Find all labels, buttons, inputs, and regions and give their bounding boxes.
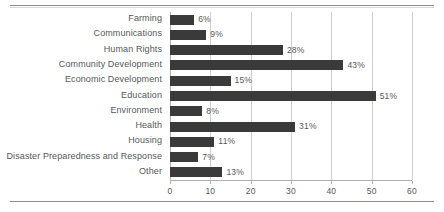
bar-value-label: 15% (235, 75, 253, 85)
category-label: Disaster Preparedness and Response (7, 151, 163, 161)
bar-value-label: 28% (287, 45, 305, 55)
bar-row: 9% (170, 27, 412, 42)
x-tick-20 (251, 181, 252, 184)
category-label: Communications (94, 28, 162, 38)
x-tick-60 (412, 181, 413, 184)
bar[interactable] (170, 91, 376, 101)
category-label: Economic Development (65, 74, 162, 84)
x-tick-40 (331, 181, 332, 184)
x-tick-0 (170, 181, 171, 184)
bar-value-label: 8% (206, 106, 219, 116)
category-label: Health (135, 120, 162, 130)
category-label: Community Development (59, 59, 162, 69)
bar[interactable] (170, 122, 295, 132)
x-tick-10 (210, 181, 211, 184)
bar-value-label: 6% (198, 14, 211, 24)
category-label: Education (121, 90, 162, 100)
bar-value-label: 43% (347, 60, 365, 70)
bar-value-label: 31% (299, 121, 317, 131)
bar-row: 43% (170, 58, 412, 73)
x-tick-30 (291, 181, 292, 184)
bar-row: 7% (170, 149, 412, 164)
top-divider-rule (10, 5, 434, 6)
bar-row: 13% (170, 165, 412, 180)
bar[interactable] (170, 137, 214, 147)
bar-row: 31% (170, 119, 412, 134)
x-tick-label-10: 10 (205, 186, 215, 196)
category-label: Farming (128, 13, 162, 23)
category-axis-labels: FarmingCommunicationsHuman RightsCommuni… (0, 12, 166, 180)
bottom-divider-rule (10, 201, 434, 202)
category-label: Other (139, 166, 162, 176)
bar-row: 8% (170, 104, 412, 119)
x-tick-50 (372, 181, 373, 184)
category-label: Environment (110, 105, 162, 115)
x-tick-label-60: 60 (407, 186, 417, 196)
bar[interactable] (170, 152, 198, 162)
bar-chart-figure: FarmingCommunicationsHuman RightsCommuni… (0, 0, 444, 212)
top-divider-rule-secondary (10, 7, 434, 8)
bar-row: 15% (170, 73, 412, 88)
bar-value-label: 7% (202, 152, 215, 162)
bar[interactable] (170, 15, 194, 25)
gridline-x-60 (412, 12, 413, 180)
bar[interactable] (170, 167, 222, 177)
bar[interactable] (170, 106, 202, 116)
bar[interactable] (170, 60, 343, 70)
plot-area: 01020304050606%9%28%43%15%51%8%31%11%7%1… (170, 12, 412, 180)
bar[interactable] (170, 30, 206, 40)
x-tick-label-20: 20 (246, 186, 256, 196)
bar-value-label: 9% (210, 29, 223, 39)
bar[interactable] (170, 76, 231, 86)
x-tick-label-30: 30 (286, 186, 296, 196)
bar-value-label: 13% (226, 167, 244, 177)
x-tick-label-50: 50 (367, 186, 377, 196)
category-label: Human Rights (104, 44, 162, 54)
x-tick-label-40: 40 (326, 186, 336, 196)
category-label: Housing (128, 135, 162, 145)
bar-row: 6% (170, 12, 412, 27)
bar[interactable] (170, 45, 283, 55)
bar-row: 11% (170, 134, 412, 149)
x-tick-label-0: 0 (168, 186, 173, 196)
bar-row: 51% (170, 88, 412, 103)
bar-row: 28% (170, 43, 412, 58)
bar-value-label: 51% (380, 91, 398, 101)
bar-value-label: 11% (218, 136, 235, 146)
